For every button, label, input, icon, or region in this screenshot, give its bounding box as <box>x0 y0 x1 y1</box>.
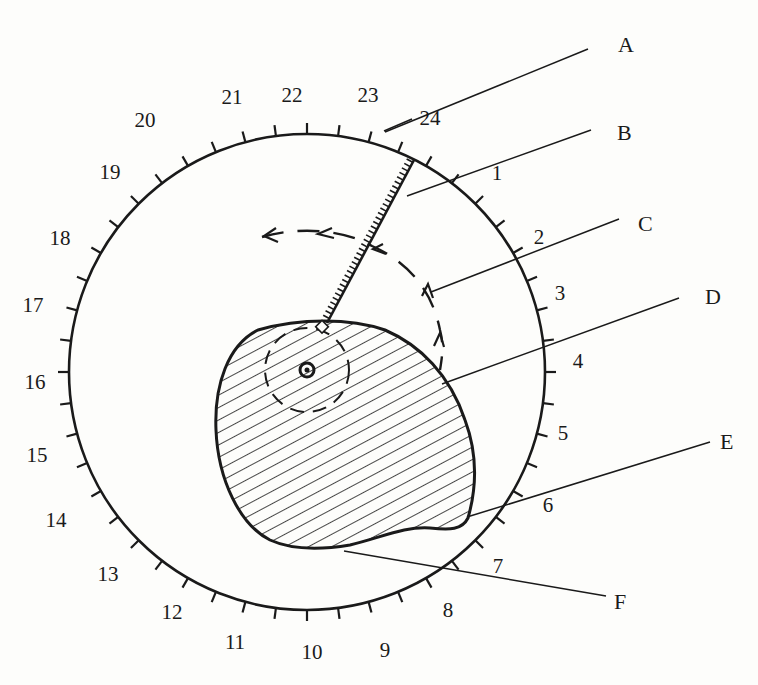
hour-label: 12 <box>162 600 183 624</box>
hour-label: 23 <box>358 83 379 107</box>
rack-tooth <box>342 280 348 283</box>
dial-tick <box>496 517 505 524</box>
dial-tick <box>183 578 189 588</box>
rack-tooth <box>352 262 358 265</box>
rack-tooth <box>378 213 384 216</box>
dial-tick <box>212 592 216 602</box>
rack-tooth <box>335 293 341 296</box>
rack-tooth <box>373 221 379 224</box>
rack-tooth <box>371 226 377 229</box>
hour-label: 20 <box>135 108 156 132</box>
dial-tick <box>131 196 139 204</box>
rack-tooth <box>392 186 398 189</box>
dial-tick <box>212 142 216 152</box>
callout-label-e: E <box>720 429 733 454</box>
rack-tooth <box>338 288 344 291</box>
dial-tick <box>274 608 275 619</box>
rack-tooth <box>368 230 374 233</box>
rack-tooth <box>404 163 410 166</box>
dial-tick <box>543 403 554 404</box>
rack-tooth <box>333 297 339 300</box>
hour-label: 11 <box>225 630 245 654</box>
dial-tick <box>155 561 162 570</box>
rack-tooth <box>388 195 394 198</box>
dial-tick <box>243 602 246 613</box>
dial-tick <box>91 248 101 254</box>
rack-tooth <box>326 311 332 314</box>
hour-label: 24 <box>420 106 442 130</box>
dial-tick <box>66 434 77 437</box>
hour-label: 17 <box>23 293 44 317</box>
hour-label: 19 <box>100 160 121 184</box>
dial-tick <box>452 561 459 570</box>
rack-tooth <box>364 239 370 242</box>
rack-tooth <box>399 172 405 175</box>
dial-tick <box>91 491 101 497</box>
dial-tick <box>475 540 483 548</box>
rack-tooth <box>380 208 386 211</box>
hour-label: 21 <box>222 85 243 109</box>
dial-tick <box>398 142 402 152</box>
hour-label: 3 <box>555 281 566 305</box>
rack-tooth <box>357 253 363 256</box>
rack-tooth <box>376 217 382 220</box>
hour-label: 10 <box>302 640 323 664</box>
callout-leader-a <box>385 49 588 132</box>
dial-tick <box>155 174 162 183</box>
dial-tick <box>543 339 554 340</box>
hour-label: 9 <box>380 638 391 662</box>
rack-tooth <box>345 275 351 278</box>
hour-label: 18 <box>50 226 71 250</box>
hour-label: 8 <box>443 598 454 622</box>
dial-tick <box>527 463 537 467</box>
dial-tick <box>426 578 432 588</box>
dial-tick <box>513 248 523 254</box>
dial-tick <box>527 277 537 281</box>
rack-tooth <box>359 248 365 251</box>
dial-tick <box>77 277 87 281</box>
hour-label: 15 <box>27 443 48 467</box>
rack-tooth <box>385 199 391 202</box>
arrow-icon <box>318 228 334 238</box>
rack-tooth <box>328 306 334 309</box>
dial-tick <box>274 125 275 136</box>
dial-tick <box>338 608 339 619</box>
hour-label: 13 <box>98 562 119 586</box>
dial-tick <box>426 156 432 166</box>
rack-tooth <box>349 266 355 269</box>
callout-label-f: F <box>614 589 626 614</box>
dial-tick <box>369 131 372 142</box>
dial-tick <box>537 434 548 437</box>
dial-tick <box>243 131 246 142</box>
callout-leader-c <box>431 219 619 292</box>
rack-tooth <box>361 244 367 247</box>
hour-label: 14 <box>46 508 68 532</box>
dial-tick <box>369 602 372 613</box>
dial-tick <box>60 403 71 404</box>
dial-tick <box>496 220 505 227</box>
arrow-icon <box>434 333 444 347</box>
hour-label: 2 <box>534 225 545 249</box>
rack-tooth <box>395 181 401 184</box>
cam-body <box>216 321 475 548</box>
hour-label: 5 <box>558 421 569 445</box>
callout-label-d: D <box>705 284 721 309</box>
callout-leader-d <box>442 298 679 384</box>
hour-label: 16 <box>25 370 46 394</box>
hour-label: 6 <box>543 493 554 517</box>
rack-tooth <box>397 177 403 180</box>
rack-teeth <box>323 159 413 319</box>
rack-tooth <box>340 284 346 287</box>
dial-tick <box>475 196 483 204</box>
rack-tooth <box>347 271 353 274</box>
rack-tooth <box>330 302 336 305</box>
dial-tick <box>77 463 87 467</box>
dial-tick <box>338 125 339 136</box>
callout-leader-e <box>467 442 710 517</box>
dial-tick <box>131 540 139 548</box>
dial-tick <box>513 491 523 497</box>
dial-tick <box>109 220 118 227</box>
hour-label: 22 <box>282 83 303 107</box>
rack-arm <box>327 160 414 323</box>
cam-pivot-inner <box>305 368 310 373</box>
